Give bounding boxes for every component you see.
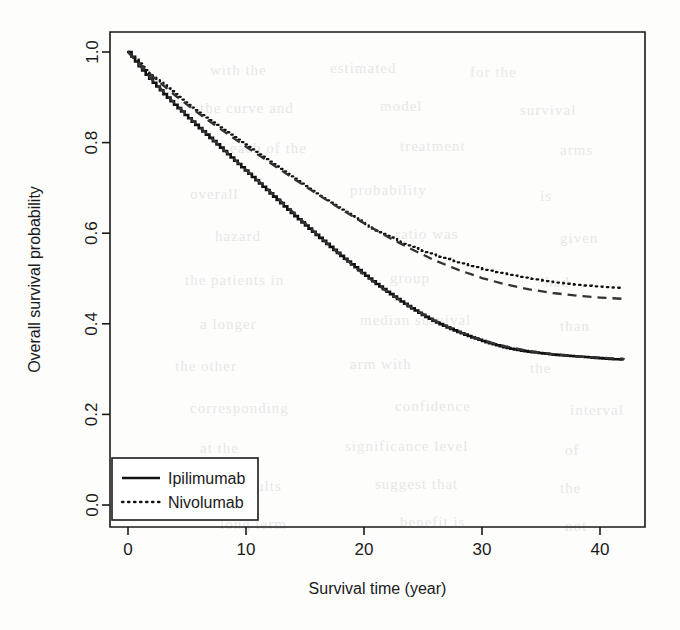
series-curve-nivolumab (128, 52, 624, 288)
y-tick-label: 0.2 (83, 403, 102, 427)
legend-label-ipilimumab[interactable]: Ipilimumab (168, 470, 245, 487)
x-tick-label: 20 (355, 540, 374, 559)
y-tick-label: 0.4 (83, 312, 102, 336)
x-tick-label: 40 (591, 540, 610, 559)
series-curve-ipilimumab (128, 52, 624, 360)
curve-group (128, 52, 624, 360)
y-tick-label: 0.6 (83, 221, 102, 245)
figure-canvas: with theestimatedfor thethe curve andmod… (0, 0, 680, 630)
x-tick-label: 30 (473, 540, 492, 559)
y-tick-label: 1.0 (83, 40, 102, 64)
x-tick-label: 10 (237, 540, 256, 559)
x-tick-label: 0 (123, 540, 132, 559)
legend-label-nivolumab[interactable]: Nivolumab (168, 494, 244, 511)
legend[interactable]: IpilimumabNivolumab (112, 458, 258, 520)
y-axis-title: Overall survival probability (26, 186, 43, 373)
x-axis-title: Survival time (year) (309, 580, 447, 597)
legend-box (112, 458, 258, 520)
series-curve-ipilimumab-fitted (128, 52, 624, 359)
y-tick-label: 0.8 (83, 131, 102, 155)
y-tick-label: 0.0 (83, 493, 102, 517)
survival-plot: 0102030400.00.20.40.60.81.0Survival time… (0, 0, 680, 630)
series-curve-nivolumab-fitted (128, 52, 624, 299)
